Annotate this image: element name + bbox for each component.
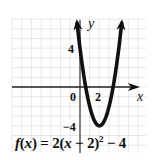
x-tick-label-2: 2 (95, 90, 101, 104)
eq-part: − 4 (103, 135, 126, 151)
y-tick-label-neg4: −4 (63, 120, 76, 134)
y-tick-label-4: 4 (68, 42, 74, 56)
eq-part: − 2) (72, 135, 100, 151)
origin-label: 0 (70, 90, 76, 104)
x-axis-label: x (136, 89, 144, 104)
eq-x: x (64, 135, 71, 151)
eq-part: ) = 2( (32, 135, 64, 151)
function-equation: f(x) = 2(x − 2)2 − 4 (15, 134, 126, 152)
eq-x: x (25, 135, 32, 151)
y-axis-label: y (86, 16, 95, 31)
